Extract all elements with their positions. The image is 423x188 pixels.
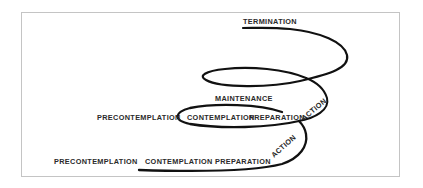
stages-of-change-spiral: TERMINATION MAINTENANCE PRECONTEMPLATION…	[0, 0, 423, 188]
label-middle-contemplation: CONTEMPLATION	[187, 113, 255, 122]
label-bottom-precontemplation: PRECONTEMPLATION	[54, 157, 138, 166]
label-middle-precontemplation: PRECONTEMPLATION	[97, 113, 181, 122]
label-maintenance: MAINTENANCE	[215, 94, 273, 103]
label-bottom-preparation: PREPARATION	[215, 157, 271, 166]
label-bottom-contemplation: CONTEMPLATION	[145, 157, 213, 166]
label-bottom-action: ACTION	[269, 133, 297, 160]
label-middle-preparation: PREPARATION	[249, 113, 305, 122]
label-termination: TERMINATION	[243, 17, 297, 26]
